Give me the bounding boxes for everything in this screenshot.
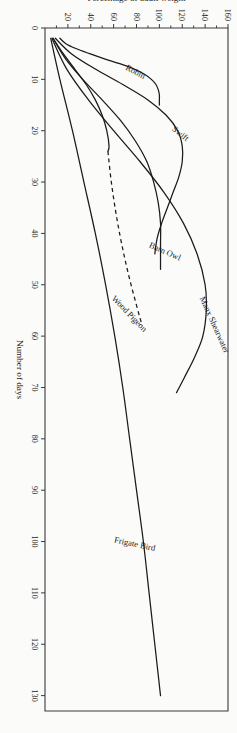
chart-plot-area: 0102030405060708090100110120130 20406080…: [0, 0, 237, 733]
x-tick-label: 30: [30, 178, 39, 186]
y-tick-label: 20: [63, 13, 72, 21]
x-tick-label: 0: [30, 26, 39, 30]
rotated-page-wrapper: – | – | – 010203040506070809010011012013…: [0, 0, 237, 733]
chart-background: [0, 0, 237, 733]
x-tick-label: 40: [30, 229, 39, 237]
y-tick-label: 120: [177, 9, 186, 21]
y-tick-label: 40: [86, 13, 95, 21]
x-tick-label: 20: [30, 127, 39, 135]
growth-curves-line-chart: 0102030405060708090100110120130 20406080…: [0, 0, 237, 733]
x-tick-label: 80: [30, 435, 39, 443]
figure-container: – | – | – 010203040506070809010011012013…: [0, 0, 237, 733]
x-tick-label: 90: [30, 486, 39, 494]
x-axis-title: Number of days: [15, 340, 25, 400]
y-tick-label: 160: [223, 9, 232, 21]
y-tick-label: 140: [200, 9, 209, 21]
x-tick-label: 110: [30, 587, 39, 599]
x-tick-label: 100: [30, 535, 39, 547]
x-tick-label: 50: [30, 281, 39, 289]
y-tick-label: 80: [132, 13, 141, 21]
y-tick-label: 60: [109, 13, 118, 21]
x-tick-label: 10: [30, 75, 39, 83]
y-axis-title: Percentage of adult weight: [87, 0, 186, 3]
x-tick-label: 120: [30, 638, 39, 650]
x-tick-label: 70: [30, 383, 39, 391]
x-tick-label: 60: [30, 332, 39, 340]
x-tick-label: 130: [30, 689, 39, 701]
y-tick-label: 100: [154, 9, 163, 21]
